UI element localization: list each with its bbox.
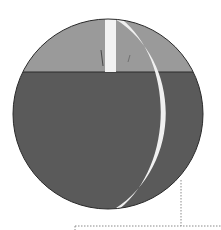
sphere-diagram xyxy=(0,0,221,230)
vertical-strip xyxy=(105,15,116,72)
sphere xyxy=(0,0,221,230)
lower-body xyxy=(0,72,221,230)
